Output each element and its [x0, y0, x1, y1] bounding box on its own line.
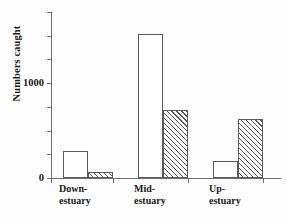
bar-chart: Numbers caught 01000 Down-estuaryMid-est… [0, 0, 287, 218]
plot-area: 01000 [51, 12, 281, 179]
bar-up-estuary-hatched [238, 119, 263, 178]
x-axis-label-line: estuary [209, 195, 241, 207]
x-axis-line [51, 178, 281, 179]
x-axis-label-line: Mid- [134, 183, 166, 195]
y-axis-tick: 1000 [47, 83, 51, 84]
x-axis-tick [263, 179, 264, 183]
x-axis-label-down-estuary: Down-estuary [59, 183, 91, 207]
y-axis-tick-label: 1000 [23, 76, 44, 89]
y-axis-tick [47, 12, 51, 13]
x-axis-label-line: estuary [59, 195, 91, 207]
y-axis-tick [47, 107, 51, 108]
x-axis-tick [51, 179, 52, 183]
y-axis-label: Numbers caught [11, 4, 22, 124]
y-axis-tick [47, 154, 51, 155]
x-axis-label-line: estuary [134, 195, 166, 207]
y-axis-tick [47, 59, 51, 60]
x-axis-label-line: Down- [59, 183, 91, 195]
x-axis-tick [188, 179, 189, 183]
y-axis-line [51, 12, 52, 179]
x-axis-label-mid-estuary: Mid-estuary [134, 183, 166, 207]
bar-mid-estuary-open [138, 34, 163, 178]
bar-mid-estuary-hatched [163, 110, 188, 178]
bar-down-estuary-hatched [88, 172, 113, 178]
x-axis-label-up-estuary: Up-estuary [209, 183, 241, 207]
bar-down-estuary-open [63, 151, 88, 178]
x-axis-label-line: Up- [209, 183, 241, 195]
y-axis-tick [47, 131, 51, 132]
y-axis-tick-label: 0 [39, 171, 44, 184]
y-axis-tick [47, 36, 51, 37]
x-axis-tick [113, 179, 114, 183]
bar-up-estuary-open [213, 161, 238, 178]
